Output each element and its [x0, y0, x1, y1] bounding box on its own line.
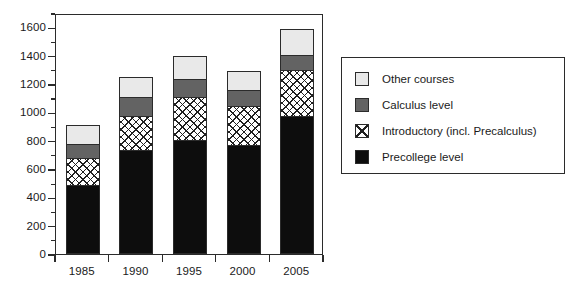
bar-segment-introductory [280, 70, 314, 117]
legend-label: Other courses [382, 73, 454, 86]
x-axis-label-1995: 1995 [176, 265, 202, 277]
bar-segment-other [227, 71, 261, 91]
plot-area [55, 14, 323, 255]
legend-label: Precollege level [382, 151, 463, 164]
legend-swatch-introductory-icon [355, 124, 369, 138]
legend-entry-precollege[interactable]: Precollege level [355, 149, 463, 165]
x-tick [162, 255, 163, 262]
stacked-bar-chart-figure: 02004006008001000120014001600 1985199019… [0, 0, 569, 286]
legend-label: Calculus level [382, 99, 453, 112]
bar-segment-other [66, 125, 100, 145]
y-axis-label: 1600 [20, 22, 46, 34]
y-tick-major [48, 113, 55, 114]
bar-2000 [227, 13, 261, 254]
y-axis-label: 1400 [20, 51, 46, 63]
bar-segment-precollege [119, 149, 153, 254]
bar-segment-introductory [227, 105, 261, 146]
y-tick-major [48, 84, 55, 85]
legend-swatch-calculus-icon [355, 98, 369, 112]
bar-segment-precollege [280, 116, 314, 254]
bar-segment-other [119, 77, 153, 98]
legend-entry-other[interactable]: Other courses [355, 71, 454, 87]
y-tick-major [48, 28, 55, 29]
bar-segment-calculus [280, 54, 314, 71]
bar-segment-calculus [227, 90, 261, 107]
y-tick-major [48, 56, 55, 57]
legend-entry-calculus[interactable]: Calculus level [355, 97, 453, 113]
x-tick [108, 255, 109, 262]
y-tick-major [48, 169, 55, 170]
bar-segment-introductory [173, 97, 207, 141]
bar-segment-introductory [119, 115, 153, 150]
bar-segment-other [280, 29, 314, 56]
y-axis-label: 0 [40, 249, 47, 261]
bar-segment-other [173, 56, 207, 80]
y-axis-label: 200 [27, 221, 47, 233]
bar-1995 [173, 13, 207, 254]
x-tick [54, 255, 55, 262]
y-axis: 02004006008001000120014001600 [0, 0, 55, 286]
bar-segment-calculus [173, 79, 207, 99]
y-axis-label: 1200 [20, 79, 46, 91]
bar-segment-precollege [227, 145, 261, 254]
bar-1990 [119, 13, 153, 254]
x-axis-label-2005: 2005 [283, 265, 309, 277]
bar-segment-introductory [66, 158, 100, 186]
legend-swatch-other-icon [355, 72, 369, 86]
bar-1985 [66, 13, 100, 254]
x-axis-label-2000: 2000 [230, 265, 256, 277]
x-tick [215, 255, 216, 262]
y-tick-major [48, 198, 55, 199]
x-tick [322, 255, 323, 262]
bar-segment-calculus [66, 144, 100, 159]
y-axis-label: 400 [27, 192, 47, 204]
y-axis-label: 1000 [20, 107, 46, 119]
chart-legend: Other coursesCalculus levelIntroductory … [341, 57, 565, 174]
y-tick-major [48, 226, 55, 227]
legend-swatch-precollege-icon [355, 150, 369, 164]
bar-segment-calculus [119, 97, 153, 117]
x-axis-label-1990: 1990 [122, 265, 148, 277]
y-axis-label: 600 [27, 164, 47, 176]
x-tick [269, 255, 270, 262]
legend-label: Introductory (incl. Precalculus) [382, 125, 537, 138]
y-axis-label: 800 [27, 136, 47, 148]
bar-segment-precollege [66, 185, 100, 254]
bar-2005 [280, 13, 314, 254]
y-tick-major [48, 141, 55, 142]
legend-entry-intro[interactable]: Introductory (incl. Precalculus) [355, 123, 537, 139]
bar-segment-precollege [173, 140, 207, 255]
x-axis-label-1985: 1985 [69, 265, 95, 277]
